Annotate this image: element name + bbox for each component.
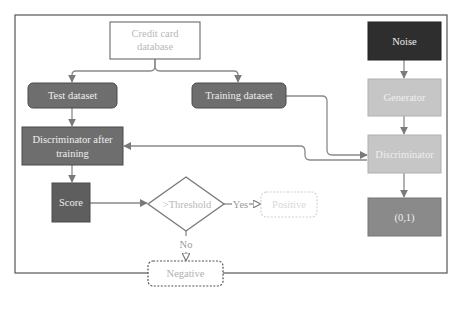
score-label: Score [59,197,83,208]
node-test-dataset: Test dataset [28,83,117,108]
node-output-probability: (0,1) [368,198,441,236]
edge-label-yes: Yes [233,199,248,210]
output-label: (0,1) [394,212,415,224]
node-score: Score [52,183,90,222]
disc-after-label-line1: Discriminator after [32,134,113,145]
threshold-label: >Threshold [163,199,212,210]
node-credit-card-database: Credit card database [110,22,200,59]
node-training-dataset: Training dataset [192,83,286,108]
test-dataset-label: Test dataset [48,90,97,101]
discriminator-label: Discriminator [375,149,434,160]
node-negative: Negative [148,261,223,286]
positive-label: Positive [272,199,306,210]
edge-label-no: No [180,239,193,250]
training-dataset-label: Training dataset [205,90,273,101]
node-positive: Positive [261,192,317,217]
generator-label: Generator [384,92,426,103]
node-discriminator-after-training: Discriminator after training [22,127,123,165]
database-label-line2: database [137,41,173,52]
node-noise: Noise [368,22,441,60]
node-discriminator: Discriminator [368,135,441,173]
negative-label: Negative [167,268,205,279]
noise-label: Noise [392,36,417,47]
flowchart: Credit card database Test dataset Traini… [0,0,460,309]
database-label-line1: Credit card [132,28,180,39]
node-generator: Generator [368,79,441,116]
disc-after-label-line2: training [56,148,89,159]
